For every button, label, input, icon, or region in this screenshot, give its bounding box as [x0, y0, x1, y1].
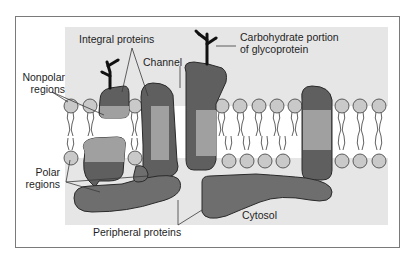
integral-protein-right [302, 86, 332, 180]
label-nonpolar-line1: Nonpolar [18, 71, 65, 83]
label-nonpolar-line2: regions [18, 83, 65, 95]
channel-protein-left [141, 83, 178, 179]
peripheral-protein-fragment [134, 166, 149, 182]
membrane-diagram [0, 0, 411, 265]
label-carbohydrate-line1: Carbohydrate portion [240, 31, 339, 43]
label-peripheral-proteins: Peripheral proteins [93, 226, 181, 238]
label-cytosol: Cytosol [242, 209, 277, 221]
label-channel: Channel [143, 56, 182, 68]
label-integral-proteins: Integral proteins [79, 33, 154, 45]
label-polar-line2: regions [18, 178, 60, 190]
label-polar-line1: Polar [18, 166, 60, 178]
integral-protein-small [99, 86, 129, 118]
label-carbohydrate-line2: of glycoprotein [240, 43, 308, 55]
